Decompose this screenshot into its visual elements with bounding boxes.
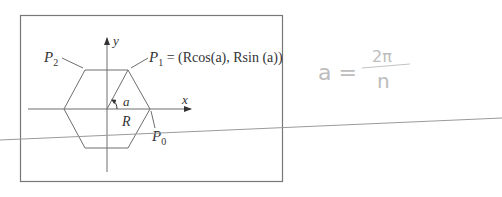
p1-leader <box>131 58 148 68</box>
p0-leader <box>151 111 155 128</box>
radius-label: R <box>121 114 131 129</box>
p1-label: P1 = (Rcos(a), Rsin (a)) <box>148 49 283 68</box>
p0-label: P0 <box>151 128 166 147</box>
handwritten-numerator: 2π <box>372 47 392 66</box>
figure-frame <box>21 16 283 182</box>
angle-label: a <box>123 94 130 109</box>
x-axis-label: x <box>181 92 188 107</box>
hexagon-diagram: y x a R P2 P1 = (Rcos(a), Rsin (a)) P0 a… <box>0 0 502 197</box>
angle-arc <box>112 100 117 109</box>
y-axis-label: y <box>111 33 119 48</box>
handwritten-formula: a = 2π n <box>318 47 410 93</box>
p2-leader <box>62 58 83 68</box>
p2-label: P2 <box>43 49 58 68</box>
handwritten-denominator: n <box>377 69 390 93</box>
handwritten-lhs: a = <box>318 60 357 85</box>
